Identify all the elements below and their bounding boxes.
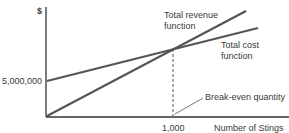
breakeven-label: Break-even quantity <box>205 92 285 102</box>
cost-label-2: function <box>221 51 253 61</box>
y-tick-label: 5,000,000 <box>2 76 42 86</box>
breakeven-chart <box>0 0 289 133</box>
x-axis-label: Number of Stings <box>214 123 284 133</box>
revenue-label-1: Total revenue <box>164 10 218 20</box>
cost-label-1: Total cost <box>221 40 259 50</box>
revenue-label-2: function <box>164 21 196 31</box>
breakeven-leader <box>175 98 203 114</box>
x-tick-label: 1,000 <box>162 123 185 133</box>
y-axis-label: $ <box>37 6 42 16</box>
